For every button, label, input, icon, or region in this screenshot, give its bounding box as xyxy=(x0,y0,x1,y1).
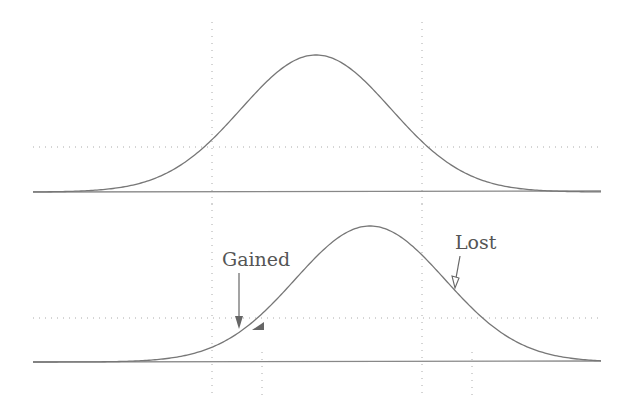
gained-region-marker xyxy=(252,322,264,330)
gained-arrow-head xyxy=(235,316,243,329)
top-baseline xyxy=(33,191,601,192)
bottom-panel: Gained Lost xyxy=(33,203,601,395)
bottom-gaussian-curve xyxy=(33,226,601,362)
gaussian-shift-diagram: Gained Lost xyxy=(0,0,621,416)
gained-label: Gained xyxy=(222,248,290,270)
lost-arrow-shaft xyxy=(456,256,460,278)
top-gaussian-curve xyxy=(33,55,601,192)
top-panel xyxy=(33,22,601,208)
lost-arrow-head xyxy=(452,276,459,288)
lost-label: Lost xyxy=(455,231,497,253)
